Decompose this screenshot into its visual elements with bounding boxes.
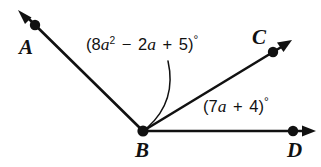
- ray-bc-line: [143, 46, 283, 131]
- angle-cbd-operator: +: [233, 97, 243, 115]
- angle-abc-label: (8a2 − 2a + 5)°: [86, 36, 198, 54]
- ray-ba-arrowhead: [18, 10, 32, 24]
- angle-cbd-label: (7a + 4)°: [203, 98, 269, 116]
- point-label-b: B: [135, 140, 149, 161]
- angle-abc-coefficient-1: 8: [92, 35, 101, 53]
- angle-abc-constant: 5: [179, 35, 188, 53]
- point-b-dot: [137, 125, 148, 136]
- ray-bd-arrowhead: [302, 126, 316, 137]
- ray-bc-arrowhead: [277, 40, 292, 52]
- angle-abc-operator-1: −: [122, 35, 132, 53]
- angle-abc-coefficient-2: 2: [138, 35, 147, 53]
- point-label-d: D: [287, 140, 302, 161]
- angle-abc-operator-2: +: [162, 35, 172, 53]
- point-label-a: A: [19, 37, 33, 58]
- point-d-dot: [288, 126, 298, 136]
- degree-symbol-icon: °: [264, 95, 269, 109]
- point-label-c: C: [252, 27, 266, 48]
- geometry-figure: A B C D (8a2 − 2a + 5)° (7a + 4)°: [0, 0, 321, 167]
- point-c-dot: [268, 47, 278, 57]
- angle-abc-variable-2: a: [147, 34, 156, 54]
- point-a-dot: [30, 20, 40, 30]
- degree-symbol-icon: °: [193, 33, 198, 47]
- angle-cbd-coefficient-1: 7: [209, 97, 218, 115]
- geometry-canvas: [0, 0, 321, 167]
